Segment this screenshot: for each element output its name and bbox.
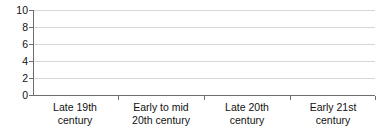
y-tick-mark-6 (29, 44, 33, 45)
y-tick-mark-0 (29, 95, 33, 96)
y-tick-label-8: 8 (4, 22, 28, 33)
y-tick-mark-8 (29, 27, 33, 28)
y-tick-label-2: 2 (4, 73, 28, 84)
y-tick-label-10: 10 (4, 5, 28, 16)
y-axis-line (33, 10, 34, 96)
y-tick-label-4: 4 (4, 56, 28, 67)
plot-area (33, 10, 375, 95)
x-tick-label-early-21st-century: Early 21st century (278, 101, 384, 127)
x-tick-mark-1 (118, 96, 119, 100)
x-tick-mark-4 (375, 96, 376, 100)
x-tick-label-line-2: century (278, 114, 384, 127)
chart-figure: 10 8 6 4 2 0 Late 19th century Early to … (0, 0, 384, 140)
y-tick-mark-10 (29, 10, 33, 11)
y-tick-mark-2 (29, 78, 33, 79)
x-tick-mark-2 (204, 96, 205, 100)
data-series-layer (33, 10, 375, 95)
y-tick-label-0: 0 (4, 90, 28, 101)
x-tick-label-line-1: Early 21st (278, 101, 384, 114)
x-tick-mark-3 (290, 96, 291, 100)
y-tick-mark-4 (29, 61, 33, 62)
y-tick-label-6: 6 (4, 39, 28, 50)
